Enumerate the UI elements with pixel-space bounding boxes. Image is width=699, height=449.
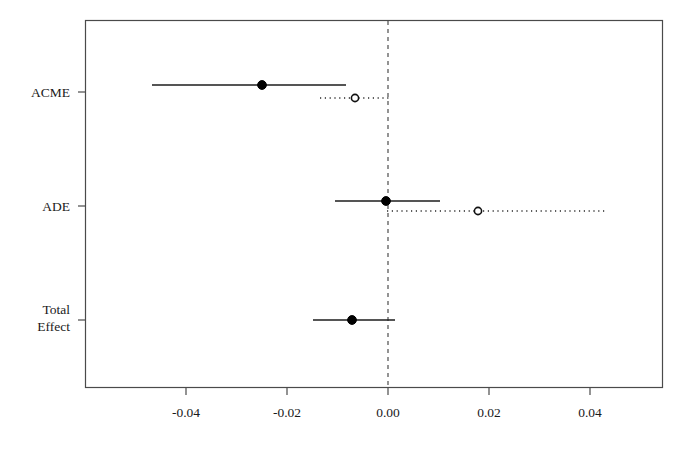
y-tick-label-ade: ADE: [42, 199, 70, 214]
ade-primary-estimate-point: [382, 197, 391, 206]
ade-secondary-estimate-point: [474, 207, 481, 214]
x-tick-label-1: -0.02: [273, 405, 301, 420]
y-tick-label-total-effect-line2: Effect: [37, 319, 70, 334]
x-tick-label-4: 0.04: [578, 405, 602, 420]
mediation-forest-plot: -0.04 -0.02 0.00 0.02 0.04 ACME ADE Tota…: [0, 0, 699, 449]
x-tick-label-0: -0.04: [172, 405, 200, 420]
x-tick-label-2: 0.00: [376, 405, 400, 420]
y-tick-label-acme: ACME: [31, 85, 70, 100]
x-tick-label-3: 0.02: [477, 405, 501, 420]
y-tick-label-total-effect-line1: Total: [42, 302, 70, 317]
total-effect-primary-estimate-point: [348, 316, 357, 325]
acme-secondary-estimate-point: [351, 94, 358, 101]
plot-canvas: -0.04 -0.02 0.00 0.02 0.04 ACME ADE Tota…: [0, 0, 699, 449]
plot-background: [0, 0, 699, 449]
acme-primary-estimate-point: [258, 81, 267, 90]
